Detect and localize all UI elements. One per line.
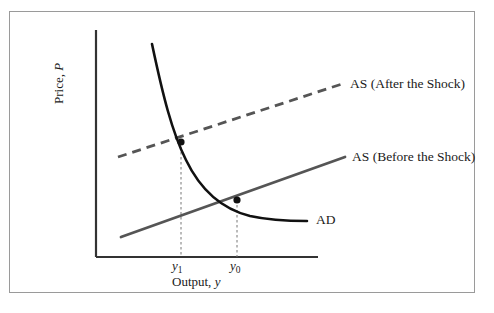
equilibrium-point-y1 (177, 138, 184, 145)
x-axis-title: Output, y (172, 275, 220, 288)
x-axis-title-symbol: y (215, 274, 221, 289)
equilibrium-point-y0 (233, 196, 240, 203)
x-tick-label-y0-subscript: 0 (236, 265, 241, 275)
y-axis-title: Price, P (52, 63, 65, 104)
curve-ad (152, 44, 307, 221)
x-tick-label-y1-base: y (172, 258, 178, 273)
x-tick-label-y0-base: y (230, 258, 236, 273)
curve-as-after-shock (118, 84, 342, 157)
series-label-as-after-shock: AS (After the Shock) (350, 77, 465, 91)
series-label-as-before-shock: AS (Before the Shock) (352, 150, 475, 164)
y-axis-title-prefix: Price, (51, 71, 66, 104)
x-axis-title-prefix: Output, (172, 274, 215, 289)
curve-as-before-shock (121, 157, 345, 237)
figure-container: AS (After the Shock) AS (Before the Shoc… (0, 0, 494, 313)
x-tick-label-y0: y0 (230, 259, 241, 273)
y-axis-title-symbol: P (51, 63, 66, 71)
x-tick-label-y1: y1 (172, 259, 183, 273)
series-label-ad: AD (316, 213, 336, 227)
x-tick-label-y1-subscript: 1 (178, 265, 183, 275)
